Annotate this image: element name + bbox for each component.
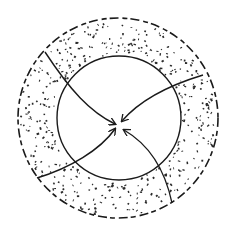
stipple-texture [20,23,214,215]
diagram-canvas [0,0,236,230]
arrow-from-upper-right [122,75,203,121]
arrow-from-lower-left [37,129,115,178]
arrow-from-upper-left [45,52,115,124]
ring-diagram [0,0,236,230]
arrow-from-lower-right [124,130,172,203]
